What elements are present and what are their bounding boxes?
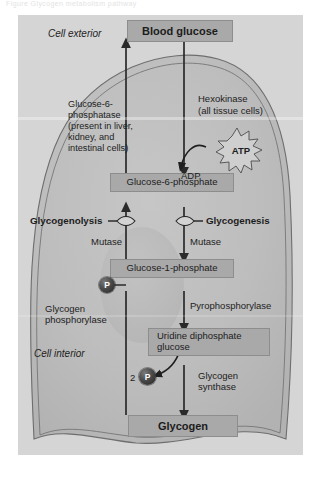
node-blood-glucose[interactable]: Blood glucose (127, 20, 233, 42)
label-glycogenolysis: Glycogenolysis (30, 215, 102, 227)
pathway-schematic (18, 15, 303, 455)
label-glycogenesis: Glycogenesis (206, 215, 270, 227)
phosphate-count-label: 2 (130, 372, 135, 383)
label-cell-exterior: Cell exterior (48, 28, 101, 40)
figure-page: Figure Glycogen metabolism pathway (0, 0, 320, 479)
top-caption: Figure Glycogen metabolism pathway (6, 0, 306, 9)
phosphate-circle-synthase: P (139, 368, 156, 385)
label-hexokinase: Hexokinase (198, 93, 248, 104)
label-mutase-left: Mutase (91, 236, 122, 247)
label-hexokinase-note: (all tissue cells) (198, 105, 263, 116)
label-cell-interior: Cell interior (34, 348, 85, 360)
label-glucose-6-phosphatase: Glucose-6- phosphatase (present in liver… (68, 99, 146, 154)
diagram-panel: Blood glucose Glucose-6-phosphate Glucos… (18, 15, 303, 455)
node-udp-glucose[interactable]: Uridine diphosphate glucose (148, 328, 270, 356)
node-glucose-6-phosphate[interactable]: Glucose-6-phosphate (110, 173, 234, 192)
label-atp: ATP (222, 145, 260, 156)
node-glucose-1-phosphate[interactable]: Glucose-1-phosphate (110, 259, 234, 278)
label-glycogen-synthase: Glycogen synthase (198, 370, 258, 393)
phosphate-circle-phosphorylase: P (99, 277, 115, 293)
label-pyrophosphorylase: Pyrophosphorylase (190, 300, 271, 311)
label-glycogen-phosphorylase: Glycogen phosphorylase (45, 303, 125, 326)
node-glycogen[interactable]: Glycogen (128, 415, 238, 437)
label-mutase-right: Mutase (190, 236, 221, 247)
label-adp: ADP (181, 170, 201, 181)
